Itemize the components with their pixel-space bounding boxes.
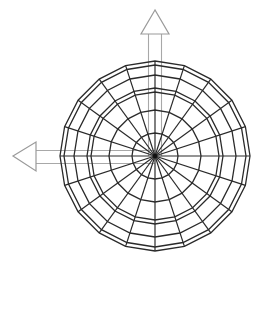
arrow-left-icon[interactable] xyxy=(13,142,36,171)
wireframe-sphere[interactable] xyxy=(60,61,250,251)
axis-gizmo[interactable] xyxy=(13,10,169,171)
pole-vertex xyxy=(153,154,157,158)
viewport-canvas xyxy=(0,0,268,331)
arrow-up-icon[interactable] xyxy=(141,10,169,34)
